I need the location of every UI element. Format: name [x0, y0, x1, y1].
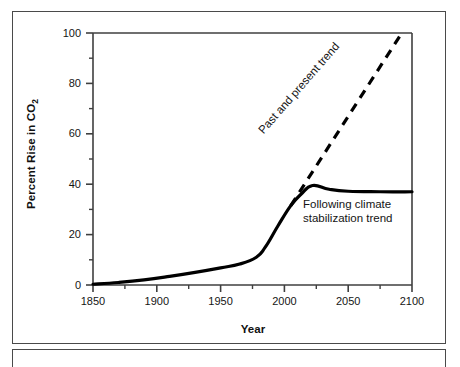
x-tick-label-2100: 2100: [387, 295, 437, 307]
y-tick-label-40: 40: [41, 178, 81, 190]
stabilization-label-line-1: Following climate: [303, 198, 393, 212]
y-tick-label-100: 100: [41, 27, 81, 39]
y-axis-title-subscript: 2: [30, 99, 40, 104]
y-tick-label-0: 0: [41, 279, 81, 291]
y-axis-title-text: Percent Rise in CO: [25, 104, 37, 209]
x-axis-title: Year: [93, 323, 413, 335]
stabilization-label-line-2: stabilization trend: [303, 212, 393, 226]
x-tick-label-2050: 2050: [323, 295, 373, 307]
x-tick-label-1900: 1900: [132, 295, 182, 307]
x-tick-label-1850: 1850: [68, 295, 118, 307]
x-tick-label-1950: 1950: [196, 295, 246, 307]
following-climate-stabilization-trend-label: Following climate stabilization trend: [303, 198, 393, 225]
past-and-present-trend-line: [291, 33, 402, 206]
y-tick-label-80: 80: [41, 77, 81, 89]
y-axis-title: Percent Rise in CO2: [25, 79, 37, 229]
x-tick-label-2000: 2000: [259, 295, 309, 307]
y-tick-label-20: 20: [41, 228, 81, 240]
axis-spines: [93, 33, 412, 285]
y-tick-label-60: 60: [41, 127, 81, 139]
